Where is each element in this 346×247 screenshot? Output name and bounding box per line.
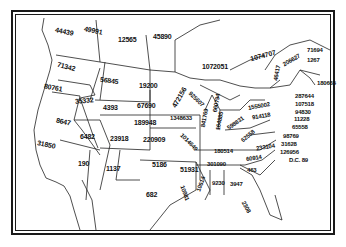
region-delaware: 31628 — [281, 141, 297, 147]
region-delaware-area: 65558 — [292, 124, 308, 130]
region-utah: 6482 — [80, 133, 95, 140]
region-texas: 682 — [146, 191, 157, 198]
region-new-jersey: 11228 — [294, 116, 309, 122]
region-ontario: 1072051 — [202, 63, 228, 70]
region-new-mexico: 1137 — [106, 165, 120, 172]
region-connecticut: 94830 — [295, 109, 311, 115]
region-wyoming: 4393 — [103, 104, 118, 111]
region-rhode-island: 107518 — [295, 101, 314, 107]
region-virginia-area: 126956 — [280, 149, 299, 155]
region-maryland: 98769 — [283, 133, 299, 139]
region-dc: D.C. 89 — [289, 157, 308, 163]
region-nova-scotia: 180665 — [317, 80, 336, 86]
region-maine: 71694 — [307, 47, 323, 53]
region-colorado: 23918 — [110, 135, 128, 142]
region-south-carolina: 463 — [247, 167, 256, 173]
region-oklahoma: 5186 — [152, 161, 167, 168]
region-north-dakota: 19200 — [139, 82, 157, 89]
region-alabama: 9230 — [212, 180, 225, 186]
region-massachusetts: 287644 — [295, 93, 314, 99]
region-kentucky: 180514 — [214, 148, 233, 154]
region-arkansas: 51931 — [180, 166, 198, 173]
region-south-dakota: 67690 — [137, 102, 155, 109]
region-nebraska: 189948 — [134, 119, 156, 126]
region-tennessee: 301090 — [207, 161, 226, 167]
region-arizona: 190 — [78, 160, 89, 167]
region-kansas: 220909 — [143, 136, 165, 143]
region-manitoba: 45890 — [153, 33, 171, 40]
region-iowa: 1348633 — [170, 115, 192, 121]
region-georgia: 3947 — [230, 181, 243, 187]
region-new-brunswick: 1267 — [307, 57, 320, 63]
region-saskatchewan: 12565 — [118, 36, 136, 43]
